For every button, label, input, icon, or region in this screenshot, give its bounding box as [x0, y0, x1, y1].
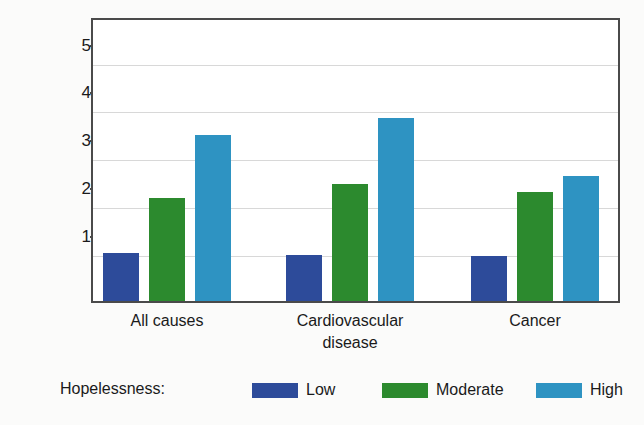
y-tick-label-1: 1	[63, 228, 91, 245]
bars-container	[91, 18, 620, 303]
y-axis-ticks: 12345	[48, 0, 91, 285]
y-tick-label-3: 3	[63, 132, 91, 149]
bar-high-2	[563, 176, 599, 301]
legend-item-moderate[interactable]: Moderate	[382, 379, 504, 401]
legend-label-high: High	[590, 381, 623, 399]
x-label-group-2: Cancer	[445, 310, 625, 332]
bar-chart-figure: Mortality Rate 12345 All causesCardiovas…	[0, 0, 644, 425]
bar-moderate-2	[517, 192, 553, 301]
legend-item-high[interactable]: High	[536, 379, 623, 401]
legend-swatch-low	[252, 383, 298, 398]
x-label-group-0: All causes	[77, 310, 257, 332]
legend-item-low[interactable]: Low	[252, 379, 335, 401]
legend-swatch-high	[536, 383, 582, 398]
x-label-group-1: Cardiovasculardisease	[260, 310, 440, 354]
bar-low-1	[286, 255, 322, 301]
y-tick-label-4: 4	[63, 84, 91, 101]
y-tick-label-5: 5	[63, 37, 91, 54]
x-label-line: Cancer	[445, 310, 625, 332]
bar-low-2	[471, 256, 507, 301]
bar-low-0	[103, 253, 139, 301]
chart-legend: Hopelessness: LowModerateHigh	[0, 376, 644, 410]
x-axis-labels: All causesCardiovasculardiseaseCancer	[91, 310, 620, 366]
x-label-line: All causes	[77, 310, 257, 332]
x-label-line: disease	[260, 332, 440, 354]
bar-moderate-0	[149, 198, 185, 301]
legend-label-low: Low	[306, 381, 335, 399]
legend-title: Hopelessness:	[60, 380, 165, 398]
legend-label-moderate: Moderate	[436, 381, 504, 399]
x-label-line: Cardiovascular	[260, 310, 440, 332]
bar-high-0	[195, 135, 231, 301]
bar-high-1	[378, 118, 414, 301]
bar-moderate-1	[332, 184, 368, 301]
y-tick-label-2: 2	[63, 180, 91, 197]
legend-swatch-moderate	[382, 383, 428, 398]
